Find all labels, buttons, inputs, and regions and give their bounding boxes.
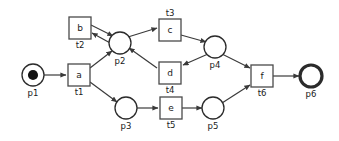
arc-t4-to-p2 (129, 48, 157, 68)
transition-label-t4: t4 (166, 85, 175, 95)
place-label-p6: p6 (306, 89, 317, 99)
transition-label-t6: t6 (258, 88, 267, 98)
arc-p2-to-t3 (128, 28, 157, 37)
transition-t5[interactable]: et5 (160, 97, 182, 130)
place-label-p2: p2 (115, 56, 126, 66)
place-p1[interactable]: p1 (22, 64, 44, 98)
place-p6[interactable]: p6 (300, 65, 322, 99)
transition-name-t1: a (76, 70, 82, 80)
arc-p4-to-t4 (183, 54, 208, 65)
transition-t2[interactable]: bt2 (69, 17, 91, 50)
place-label-p5: p5 (208, 121, 219, 131)
place-label-p3: p3 (121, 121, 132, 131)
transition-t4[interactable]: dt4 (159, 62, 181, 95)
place-p5[interactable]: p5 (202, 97, 224, 131)
place-circle-p5 (202, 97, 224, 119)
arc-t1-to-p2 (90, 51, 112, 68)
transition-label-t3: t3 (166, 8, 175, 18)
transition-t6[interactable]: ft6 (251, 65, 273, 98)
transition-label-t5: t5 (167, 120, 176, 130)
transition-name-t3: c (168, 25, 173, 35)
arc-t3-to-p4 (181, 35, 206, 42)
transitions-layer: at1bt2ct3dt4et5ft6 (68, 8, 273, 130)
place-circle-p3 (115, 97, 137, 119)
place-circle-p6 (300, 65, 322, 87)
petri-net-diagram: p1p2p3p4p5p6 at1bt2ct3dt4et5ft6 (0, 0, 339, 141)
place-p3[interactable]: p3 (115, 97, 137, 131)
place-p4[interactable]: p4 (204, 36, 226, 70)
transition-name-t4: d (167, 68, 173, 78)
transition-label-t2: t2 (76, 40, 85, 50)
place-circle-p2 (109, 32, 131, 54)
place-label-p4: p4 (210, 60, 221, 70)
transition-t3[interactable]: ct3 (159, 8, 181, 41)
place-label-p1: p1 (28, 88, 39, 98)
place-circle-p4 (204, 36, 226, 58)
petri-net-canvas: p1p2p3p4p5p6 at1bt2ct3dt4et5ft6 (0, 0, 339, 141)
transition-name-t5: e (168, 103, 174, 113)
arc-t1-to-p3 (90, 82, 117, 102)
arc-p5-to-t6 (222, 85, 250, 103)
transition-name-t2: b (77, 23, 83, 33)
token-dot-p1 (28, 70, 38, 80)
arc-p4-to-t6 (222, 54, 250, 68)
transition-label-t1: t1 (75, 87, 84, 97)
place-p2[interactable]: p2 (109, 32, 131, 66)
transition-t1[interactable]: at1 (68, 64, 90, 97)
